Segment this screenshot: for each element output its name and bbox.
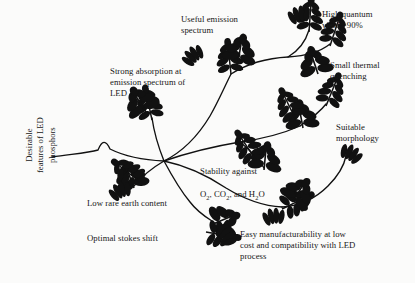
- axis-label-desirable-features: Desirable features of LED phosphors: [24, 97, 58, 193]
- label-high-quantum-yield: High quantum yield >90%: [322, 9, 412, 31]
- label-optimal-stokes-shift: Optimal stokes shift: [87, 233, 217, 244]
- label-easy-manufacturability: Easy manufacturability at low cost and c…: [240, 229, 412, 263]
- label-stability-against: Stability against O2, CO2, and H2O: [200, 155, 310, 200]
- phosphor-features-diagram: Desirable features of LED phosphors Usef…: [0, 0, 415, 283]
- label-low-rare-earth-content: Low rare earth content: [87, 198, 227, 209]
- label-suitable-morphology: Suitable morphology: [336, 122, 412, 144]
- label-small-thermal-quenching: Small thermal quenching: [330, 60, 412, 82]
- label-strong-absorption: Strong absorption at emission spectrum o…: [110, 66, 222, 100]
- label-stability-line1: Stability against: [200, 166, 257, 176]
- formula-suffix: O: [258, 189, 264, 199]
- label-useful-emission-spectrum: Useful emission spectrum: [181, 14, 273, 36]
- formula-mid2: , and H: [229, 189, 255, 199]
